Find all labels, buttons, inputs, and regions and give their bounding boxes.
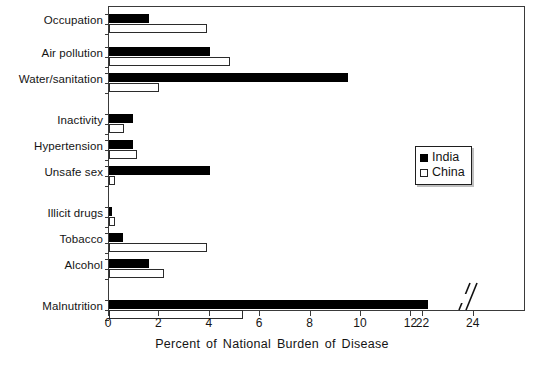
legend-swatch-china-icon — [420, 169, 428, 177]
bar-china-tobacco — [109, 243, 207, 252]
legend-label-india: India — [432, 150, 459, 165]
bar-chart: OccupationAir pollutionWater/sanitationI… — [0, 0, 544, 369]
bar-india-unsafe-sex — [109, 166, 210, 175]
x-axis-tick-label: 4 — [205, 316, 212, 330]
category-label-hypertension: Hypertension — [34, 140, 103, 152]
x-axis-tick-label: 24 — [466, 316, 479, 330]
bar-india-inactivity — [109, 114, 133, 123]
bar-china-illicit-drugs — [109, 217, 115, 226]
x-axis-tick-label: 6 — [256, 316, 263, 330]
category-axis-labels: OccupationAir pollutionWater/sanitationI… — [0, 6, 103, 311]
category-label-malnutrition: Malnutrition — [42, 300, 103, 312]
legend-item-china: China — [420, 165, 465, 180]
bar-india-water-sanitation — [109, 73, 348, 82]
legend-label-china: China — [432, 165, 465, 180]
category-label-alcohol: Alcohol — [65, 259, 103, 271]
bar-china-water-sanitation — [109, 83, 159, 92]
bar-china-air-pollution — [109, 57, 230, 66]
category-label-occupation: Occupation — [44, 14, 103, 26]
x-axis-tick-labels: 0246810122224 — [108, 316, 525, 332]
x-axis-tick-label: 2 — [155, 316, 162, 330]
category-label-unsafe-sex: Unsafe sex — [44, 166, 103, 178]
x-axis-title-text: Percent of National Burden of Disease — [155, 337, 389, 351]
x-axis-title: Percent of National Burden of Disease — [0, 337, 544, 351]
bar-india-air-pollution — [109, 47, 210, 56]
category-label-air-pollution: Air pollution — [42, 47, 103, 59]
bar-china-unsafe-sex — [109, 176, 115, 185]
x-axis-tick-label: 8 — [306, 316, 313, 330]
bar-china-occupation — [109, 24, 207, 33]
bar-china-alcohol — [109, 269, 164, 278]
category-label-inactivity: Inactivity — [57, 114, 103, 126]
legend-swatch-india-icon — [420, 154, 428, 162]
legend-item-india: India — [420, 150, 465, 165]
category-label-illicit-drugs: Illicit drugs — [47, 207, 103, 219]
category-label-tobacco: Tobacco — [59, 233, 103, 245]
bar-india-occupation — [109, 14, 149, 23]
chart-legend: India China — [415, 146, 472, 185]
bar-india-hypertension — [109, 140, 133, 149]
bar-india-tobacco — [109, 233, 123, 242]
bar-india-illicit-drugs — [109, 207, 112, 216]
category-label-water-sanitation: Water/sanitation — [19, 73, 103, 85]
bar-china-hypertension — [109, 150, 137, 159]
x-axis-tick-label: 22 — [416, 316, 429, 330]
x-axis-tick-label: 0 — [105, 316, 112, 330]
bar-india-malnutrition — [109, 300, 428, 309]
bar-india-alcohol — [109, 259, 149, 268]
bar-china-inactivity — [109, 124, 124, 133]
x-axis-tick-label: 10 — [353, 316, 366, 330]
